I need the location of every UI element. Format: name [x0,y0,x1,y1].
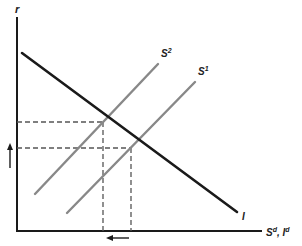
left-arrow-icon [106,235,129,241]
saving-2-label: S2 [161,47,172,59]
up-arrow-icon [7,143,13,168]
investment-label: I [242,211,245,222]
saving-1-label: S1 [198,65,209,77]
saving-curve-2 [35,64,158,194]
x-axis-label: Sd, Id [266,226,290,238]
guide-lines [17,122,131,231]
investment-curve [22,53,237,212]
saving-investment-diagram: r Sd, Id S2 S1 I [0,0,302,246]
y-axis-label: r [15,3,20,15]
